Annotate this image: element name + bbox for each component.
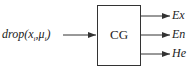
paren-close: ) [47, 27, 51, 41]
input-label: drop(xi,μi) [2, 27, 51, 43]
input-func: drop [2, 27, 24, 41]
cg-block-label: CG [97, 27, 141, 43]
output-label-he: He [172, 46, 186, 61]
output-label-ex: Ex [172, 8, 185, 23]
output-label-en: En [172, 27, 185, 42]
